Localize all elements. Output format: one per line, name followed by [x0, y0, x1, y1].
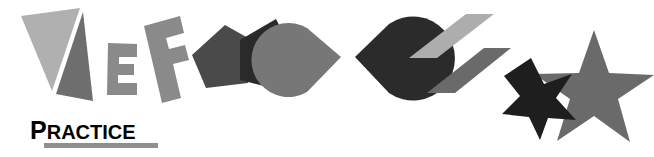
worksheet-page: PRACTICE	[0, 0, 654, 157]
heading-rest: RACTICE	[47, 121, 136, 143]
star-pair	[502, 30, 654, 142]
page-heading: PRACTICE	[30, 115, 230, 157]
block-f-large-shape	[144, 16, 189, 103]
triangle-pair	[21, 8, 93, 101]
block-f-pair	[107, 16, 189, 103]
heading-underline-bar	[44, 143, 158, 148]
heading-drop-cap: P	[30, 116, 47, 144]
pacman-light-shape	[251, 23, 341, 97]
block-f-small-shape	[107, 43, 137, 95]
pacman-pair	[251, 16, 455, 100]
